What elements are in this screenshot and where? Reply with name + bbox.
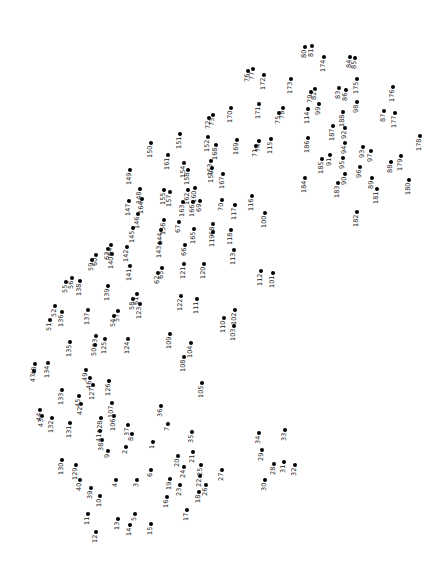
puzzle-dot [206,135,210,139]
dot-number-label: 99 [315,107,322,115]
dot-number-label: 139 [104,289,111,301]
dot-number-label: 11 [84,517,91,525]
puzzle-dot [271,271,275,275]
puzzle-dot [89,486,93,490]
dot-number-label: 121 [180,267,187,279]
dot-number-label: 156 [160,223,167,235]
puzzle-dot [313,87,317,91]
puzzle-dot [200,381,204,385]
puzzle-dot [168,477,172,481]
puzzle-dot [257,431,261,435]
dot-number-label: 142 [123,250,130,262]
puzzle-dot [341,110,345,114]
dot-number-label: 104 [187,346,194,358]
dot-number-label: 181 [373,192,380,204]
dot-number-label: 60 [92,258,99,266]
puzzle-dot [343,141,347,145]
dot-number-label: 30 [261,483,268,491]
dot-number-label: 8 [128,437,135,441]
puzzle-dot [293,463,297,467]
dot-number-label: 129 [72,468,79,480]
dot-number-label: 188 [339,115,346,127]
dot-number-label: 132 [48,421,55,433]
dot-number-label: 175 [353,82,360,94]
puzzle-dot [74,463,78,467]
puzzle-dot [210,166,214,170]
puzzle-dot [127,199,131,203]
dot-number-label: 173 [287,82,294,94]
dot-number-label: 172 [260,78,267,90]
dot-number-label: 24 [180,470,187,478]
dot-number-label: 34 [255,436,262,444]
puzzle-dot [110,252,114,256]
dot-number-label: 152 [204,140,211,152]
puzzle-dot [229,228,233,232]
puzzle-dot [263,478,267,482]
puzzle-dot [110,401,114,405]
puzzle-dot [260,448,264,452]
puzzle-dot [355,210,359,214]
dot-number-label: 120 [200,267,207,279]
dot-number-label: 184 [301,181,308,193]
puzzle-dot [151,440,155,444]
dot-number-label: 112 [257,274,264,286]
puzzle-dot [140,197,144,201]
dot-number-label: 3 [133,483,140,487]
dot-number-label: 10 [96,499,103,507]
puzzle-dot [257,102,261,106]
puzzle-dot [233,308,237,312]
puzzle-dot [198,199,202,203]
dot-number-label: 26 [202,488,209,496]
dot-number-label: 9 [104,454,111,458]
dot-number-label: 164 [138,202,145,214]
dot-number-label: 4 [112,483,119,487]
puzzle-dot [182,355,186,359]
dot-number-label: 103 [230,329,237,341]
puzzle-dot [138,302,142,306]
dot-number-label: 128 [97,421,104,433]
puzzle-dot [78,279,82,283]
puzzle-dot [322,55,326,59]
dot-number-label: 70 [218,203,225,211]
dot-number-label: 5 [131,517,138,521]
puzzle-dot [289,77,293,81]
puzzle-dot [109,243,113,247]
puzzle-dot [382,109,386,113]
puzzle-dot [250,194,254,198]
dot-number-label: 33 [281,433,288,441]
dot-number-label: 42 [77,407,84,415]
puzzle-dot [331,124,335,128]
dot-number-label: 67 [175,225,182,233]
dot-number-label: 124 [124,342,131,354]
puzzle-dot [182,161,186,165]
dot-number-label: 7 [164,427,171,431]
puzzle-dot [106,284,110,288]
dot-number-label: 53 [92,339,99,347]
puzzle-dot [124,445,128,449]
dot-number-label: 19 [166,482,173,490]
dot-number-label: 37 [124,428,131,436]
puzzle-dot [257,139,261,143]
dot-number-label: 40 [76,483,83,491]
puzzle-dot [328,153,332,157]
dot-number-label: 162 [184,193,191,205]
dot-number-label: 14 [126,528,133,536]
dot-number-label: 41 [96,434,103,442]
puzzle-dot [272,462,276,466]
puzzle-dot [60,388,64,392]
dot-number-label: 32 [291,468,298,476]
puzzle-dot [114,478,118,482]
puzzle-dot [221,172,225,176]
dot-puzzle-canvas: 1234567891011121314151617181920212223242… [0,0,448,569]
dot-number-label: 166 [189,205,196,217]
puzzle-dot [355,77,359,81]
puzzle-dot [353,56,357,60]
dot-number-label: 50 [91,348,98,356]
puzzle-dot [176,454,180,458]
dot-number-label: 119 [209,235,216,247]
dot-number-label: 174 [320,60,327,72]
puzzle-dot [149,141,153,145]
puzzle-dot [269,137,273,141]
dot-number-label: 92 [341,131,348,139]
dot-number-label: 135 [66,345,73,357]
